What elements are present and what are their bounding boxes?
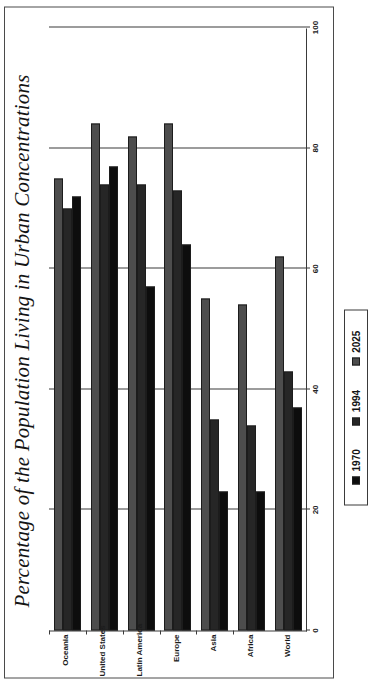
bar-latin-america-1994: [137, 184, 146, 630]
chart-figure: Percentage of the Population Living in U…: [0, 0, 376, 681]
bar-asia-2025: [201, 298, 210, 630]
value-axis-label: 0: [311, 613, 320, 647]
legend-swatch-icon: [352, 357, 360, 365]
bar-united-states-1970: [109, 166, 118, 630]
category-label-africa: Africa: [246, 634, 255, 676]
bar-asia-1970: [219, 491, 228, 630]
bar-europe-1970: [182, 244, 191, 630]
legend-item-1970: 1970: [351, 449, 362, 484]
bar-group: [49, 28, 86, 630]
value-axis-label: 20: [311, 492, 320, 526]
bar-group: [270, 28, 307, 630]
bar-africa-1970: [256, 491, 265, 630]
bar-group: [233, 28, 270, 630]
legend-label: 1970: [351, 449, 362, 471]
bar-oceania-1994: [63, 208, 72, 630]
legend-swatch-icon: [352, 417, 360, 425]
chart-legend: 197019942025: [344, 309, 368, 505]
bar-world-1970: [293, 407, 302, 630]
bar-oceania-2025: [54, 178, 63, 630]
bar-group: [123, 28, 160, 630]
plot-area: 020406080100WorldAfricaAsiaEuropeLatin A…: [49, 28, 307, 631]
category-label-world: World: [283, 634, 292, 676]
value-axis-label: 100: [311, 10, 320, 44]
rotated-figure-wrapper: Percentage of the Population Living in U…: [0, 0, 376, 681]
legend-swatch-icon: [352, 476, 360, 484]
bar-world-2025: [275, 256, 284, 630]
category-tick: [233, 630, 234, 634]
bar-group: [196, 28, 233, 630]
bar-group: [160, 28, 197, 630]
bar-africa-2025: [238, 304, 247, 630]
bar-europe-1994: [173, 190, 182, 630]
bar-group: [86, 28, 123, 630]
legend-item-2025: 2025: [351, 330, 362, 365]
bar-asia-1994: [210, 419, 219, 630]
bar-world-1994: [284, 371, 293, 630]
category-tick: [160, 630, 161, 634]
category-tick: [49, 630, 50, 634]
value-axis-label: 60: [311, 251, 320, 285]
category-label-latin-america: Latin America: [135, 634, 144, 676]
value-axis-label: 40: [311, 372, 320, 406]
legend-label: 2025: [351, 330, 362, 352]
bar-africa-1994: [247, 425, 256, 630]
value-axis-label: 80: [311, 131, 320, 165]
category-label-asia: Asia: [209, 634, 218, 676]
category-label-united-states: United States: [98, 634, 107, 676]
bar-latin-america-1970: [146, 286, 155, 630]
legend-item-1994: 1994: [351, 389, 362, 424]
bar-europe-2025: [164, 123, 173, 630]
bar-oceania-1970: [72, 196, 81, 630]
bar-latin-america-2025: [128, 136, 137, 630]
category-label-europe: Europe: [172, 634, 181, 676]
value-tick: [306, 26, 310, 27]
bar-united-states-1994: [100, 184, 109, 630]
category-tick: [86, 630, 87, 634]
legend-label: 1994: [351, 389, 362, 411]
chart-title: Percentage of the Population Living in U…: [0, 0, 44, 681]
value-gridline: [49, 26, 306, 27]
category-tick: [123, 630, 124, 634]
category-label-oceania: Oceania: [61, 634, 70, 676]
category-tick: [196, 630, 197, 634]
bar-united-states-2025: [91, 123, 100, 630]
